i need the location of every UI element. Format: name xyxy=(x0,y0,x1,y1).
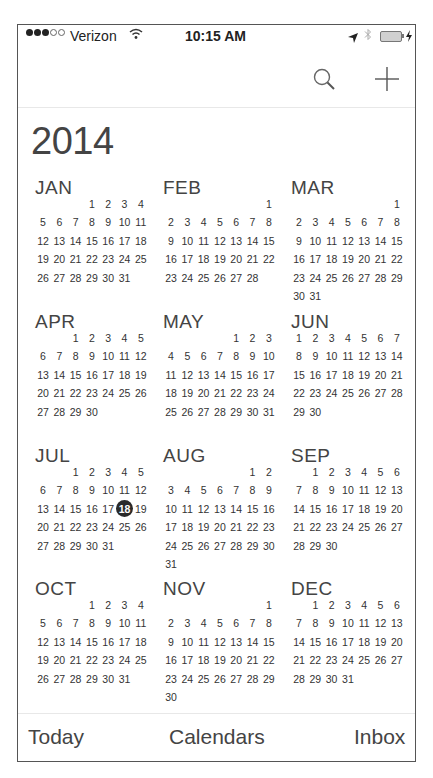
add-event-button[interactable] xyxy=(374,65,400,93)
day-cell[interactable]: 18 xyxy=(356,635,372,649)
day-cell[interactable]: 16 xyxy=(324,502,340,516)
day-cell[interactable]: 16 xyxy=(84,368,100,382)
day-cell[interactable]: 10 xyxy=(179,635,195,649)
day-cell[interactable]: 19 xyxy=(35,653,51,667)
day-cell[interactable]: 23 xyxy=(324,653,340,667)
day-cell[interactable]: 17 xyxy=(163,520,179,534)
day-cell[interactable]: 29 xyxy=(245,539,261,553)
day-cell[interactable]: 24 xyxy=(100,520,116,534)
day-cell[interactable]: 30 xyxy=(84,539,100,553)
day-cell[interactable]: 12 xyxy=(373,483,389,497)
day-cell[interactable]: 10 xyxy=(163,502,179,516)
day-cell[interactable]: 20 xyxy=(389,502,405,516)
day-cell[interactable]: 20 xyxy=(212,520,228,534)
day-cell[interactable]: 6 xyxy=(373,331,389,345)
day-cell[interactable]: 26 xyxy=(373,520,389,534)
day-cell[interactable]: 4 xyxy=(163,349,179,363)
day-cell[interactable]: 27 xyxy=(373,386,389,400)
day-cell[interactable]: 22 xyxy=(68,386,84,400)
day-cell[interactable]: 6 xyxy=(356,215,372,229)
day-cell[interactable]: 1 xyxy=(389,197,405,211)
day-cell[interactable]: 22 xyxy=(291,386,307,400)
day-cell[interactable]: 26 xyxy=(373,653,389,667)
day-cell[interactable]: 8 xyxy=(84,215,100,229)
day-cell[interactable]: 11 xyxy=(356,616,372,630)
day-cell[interactable]: 19 xyxy=(212,252,228,266)
day-cell[interactable]: 15 xyxy=(245,502,261,516)
day-cell[interactable]: 12 xyxy=(35,635,51,649)
day-cell[interactable]: 6 xyxy=(228,616,244,630)
day-cell[interactable]: 5 xyxy=(179,349,195,363)
day-cell[interactable]: 7 xyxy=(212,349,228,363)
day-cell[interactable]: 8 xyxy=(389,215,405,229)
day-cell[interactable]: 16 xyxy=(163,252,179,266)
day-cell[interactable]: 21 xyxy=(51,386,67,400)
day-cell[interactable]: 23 xyxy=(245,386,261,400)
day-cell[interactable]: 20 xyxy=(35,520,51,534)
day-cell[interactable]: 6 xyxy=(35,349,51,363)
search-button[interactable] xyxy=(312,67,338,93)
day-cell[interactable]: 14 xyxy=(51,368,67,382)
day-cell[interactable]: 29 xyxy=(307,539,323,553)
day-cell[interactable]: 12 xyxy=(133,349,149,363)
day-cell-today[interactable]: 18 xyxy=(117,502,133,516)
day-cell[interactable]: 28 xyxy=(212,405,228,419)
day-cell[interactable]: 15 xyxy=(291,368,307,382)
day-cell[interactable]: 27 xyxy=(212,539,228,553)
day-cell[interactable]: 17 xyxy=(324,368,340,382)
day-cell[interactable]: 18 xyxy=(340,368,356,382)
day-cell[interactable]: 3 xyxy=(179,215,195,229)
day-cell[interactable]: 15 xyxy=(307,635,323,649)
day-cell[interactable]: 17 xyxy=(179,653,195,667)
day-cell[interactable]: 26 xyxy=(35,271,51,285)
day-cell[interactable]: 17 xyxy=(307,252,323,266)
day-cell[interactable]: 14 xyxy=(68,234,84,248)
day-cell[interactable]: 11 xyxy=(324,234,340,248)
day-cell[interactable]: 20 xyxy=(35,386,51,400)
day-cell[interactable]: 6 xyxy=(51,215,67,229)
day-cell[interactable]: 20 xyxy=(228,653,244,667)
day-cell[interactable]: 8 xyxy=(84,616,100,630)
day-cell[interactable]: 7 xyxy=(68,616,84,630)
day-cell[interactable]: 22 xyxy=(245,520,261,534)
day-cell[interactable]: 20 xyxy=(373,368,389,382)
day-cell[interactable]: 5 xyxy=(133,331,149,345)
day-cell[interactable]: 31 xyxy=(117,672,133,686)
day-cell[interactable]: 28 xyxy=(68,271,84,285)
day-cell[interactable]: 16 xyxy=(245,368,261,382)
day-cell[interactable]: 2 xyxy=(324,598,340,612)
day-cell[interactable]: 10 xyxy=(340,616,356,630)
day-cell[interactable]: 12 xyxy=(373,616,389,630)
day-cell[interactable]: 30 xyxy=(84,405,100,419)
day-cell[interactable]: 13 xyxy=(373,349,389,363)
day-cell[interactable]: 14 xyxy=(373,234,389,248)
day-cell[interactable]: 26 xyxy=(133,386,149,400)
day-cell[interactable]: 13 xyxy=(228,234,244,248)
day-cell[interactable]: 23 xyxy=(100,252,116,266)
day-cell[interactable]: 28 xyxy=(51,405,67,419)
day-cell[interactable]: 10 xyxy=(117,616,133,630)
day-cell[interactable]: 2 xyxy=(100,197,116,211)
day-cell[interactable]: 7 xyxy=(291,483,307,497)
day-cell[interactable]: 4 xyxy=(340,331,356,345)
day-cell[interactable]: 19 xyxy=(373,502,389,516)
day-cell[interactable]: 17 xyxy=(340,635,356,649)
day-cell[interactable]: 30 xyxy=(163,690,179,704)
day-cell[interactable]: 22 xyxy=(68,520,84,534)
day-cell[interactable]: 30 xyxy=(307,405,323,419)
day-cell[interactable]: 20 xyxy=(356,252,372,266)
day-cell[interactable]: 11 xyxy=(133,616,149,630)
day-cell[interactable]: 18 xyxy=(133,234,149,248)
day-cell[interactable]: 13 xyxy=(228,635,244,649)
day-cell[interactable]: 26 xyxy=(212,271,228,285)
day-cell[interactable]: 25 xyxy=(196,672,212,686)
day-cell[interactable]: 22 xyxy=(307,653,323,667)
day-cell[interactable]: 5 xyxy=(35,215,51,229)
day-cell[interactable]: 2 xyxy=(307,331,323,345)
day-cell[interactable]: 17 xyxy=(117,234,133,248)
day-cell[interactable]: 25 xyxy=(117,520,133,534)
day-cell[interactable]: 29 xyxy=(228,405,244,419)
day-cell[interactable]: 8 xyxy=(291,349,307,363)
day-cell[interactable]: 2 xyxy=(261,465,277,479)
inbox-button[interactable]: Inbox xyxy=(354,725,405,749)
